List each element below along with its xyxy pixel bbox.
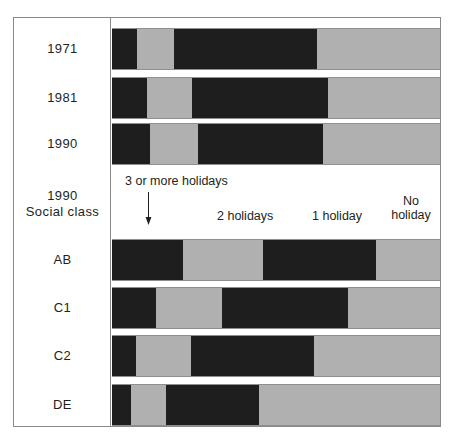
bar-segment-2-holidays: [156, 288, 221, 328]
row-label-c1: C1: [14, 287, 111, 329]
annotation-1-holiday: 1 holiday: [312, 209, 362, 223]
annotation-no-holiday-line1: No: [384, 194, 438, 208]
bar-segment-3-or-more: [112, 29, 137, 69]
row-label-text: AB: [53, 252, 71, 268]
bar-segment-3-or-more: [112, 336, 136, 376]
bar-segment-no-holiday: [314, 336, 439, 376]
row-label-1981: 1981: [14, 77, 111, 119]
bar-segment-3-or-more: [112, 288, 156, 328]
row-label-text: DE: [53, 397, 72, 413]
chart-row-de: DE: [14, 384, 440, 426]
bar-segment-1-holiday: [166, 385, 259, 425]
annotation-arrow-icon: [144, 192, 153, 226]
bar-segment-1-holiday: [263, 240, 376, 280]
stacked-bar-de: [112, 384, 440, 426]
chart-row-social-class-header: 1990 Social class 3 or more holidays 2 h…: [14, 170, 440, 238]
row-label-1990-social-class: 1990 Social class: [14, 170, 111, 238]
row-label-de: DE: [14, 384, 111, 426]
row-label-text: C1: [54, 300, 71, 316]
bar-segment-3-or-more: [112, 385, 131, 425]
stacked-bar-ab: [112, 239, 440, 281]
stacked-bar-1971: [112, 28, 440, 70]
chart-frame: 1971 1981 1990: [13, 17, 441, 427]
row-label-text: C2: [54, 348, 71, 364]
bar-segment-1-holiday: [192, 78, 327, 118]
bar-segment-no-holiday: [328, 78, 440, 118]
annotation-3-or-more-holidays: 3 or more holidays: [125, 174, 228, 188]
row-label-c2: C2: [14, 335, 111, 377]
chart-row-1990: 1990: [14, 123, 440, 165]
bar-segment-1-holiday: [191, 336, 314, 376]
bar-segment-2-holidays: [137, 29, 174, 69]
row-label-text: 1990: [47, 188, 78, 204]
bar-segment-2-holidays: [183, 240, 262, 280]
bar-segment-2-holidays: [147, 78, 192, 118]
bar-segment-2-holidays: [150, 124, 198, 164]
bar-segment-3-or-more: [112, 124, 150, 164]
stacked-bar-c2: [112, 335, 440, 377]
row-sublabel-text: Social class: [26, 204, 99, 220]
stacked-bar-1981: [112, 77, 440, 119]
bar-segment-no-holiday: [317, 29, 440, 69]
row-label-ab: AB: [14, 239, 111, 281]
annotation-no-holiday: No holiday: [384, 194, 438, 223]
chart-row-c1: C1: [14, 287, 440, 329]
row-label-1990: 1990: [14, 123, 111, 165]
row-label-1971: 1971: [14, 28, 111, 70]
row-label-text: 1971: [47, 41, 78, 57]
bar-segment-1-holiday: [222, 288, 348, 328]
bar-segment-1-holiday: [198, 124, 322, 164]
bar-segment-no-holiday: [323, 124, 440, 164]
bar-segment-no-holiday: [259, 385, 440, 425]
chart-row-1981: 1981: [14, 77, 440, 119]
row-label-text: 1981: [47, 90, 78, 106]
annotation-no-holiday-line2: holiday: [384, 208, 438, 222]
bar-segment-3-or-more: [112, 240, 183, 280]
row-label-text: 1990: [47, 136, 78, 152]
bar-segment-no-holiday: [348, 288, 440, 328]
chart-row-ab: AB: [14, 239, 440, 281]
bar-segment-2-holidays: [131, 385, 166, 425]
bar-segment-2-holidays: [136, 336, 191, 376]
bar-segment-3-or-more: [112, 78, 147, 118]
stacked-bar-c1: [112, 287, 440, 329]
annotation-area: 3 or more holidays 2 holidays 1 holiday …: [112, 170, 440, 238]
stacked-bar-1990: [112, 123, 440, 165]
bar-segment-no-holiday: [376, 240, 440, 280]
chart-row-c2: C2: [14, 335, 440, 377]
bar-segment-1-holiday: [174, 29, 317, 69]
chart-row-1971: 1971: [14, 28, 440, 70]
annotation-2-holidays: 2 holidays: [217, 209, 273, 223]
